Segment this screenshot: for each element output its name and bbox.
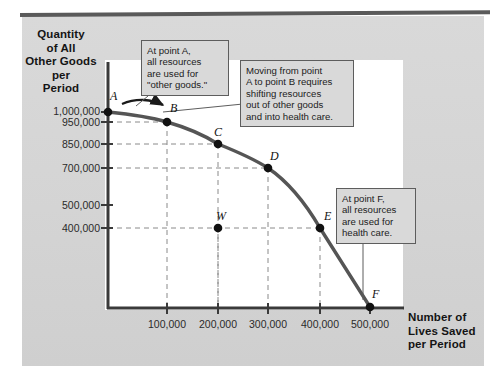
y-axis-title-line-3: Other Goods — [18, 55, 104, 69]
y-axis-title-line-4: per — [18, 69, 104, 83]
callout-point-a-line-1: At point A, — [147, 45, 223, 56]
point-c — [214, 140, 223, 149]
y-axis-title-line-2: of All — [18, 42, 104, 56]
point-w — [214, 224, 223, 233]
x-axis-title-line-1: Number of — [408, 311, 490, 325]
callout-a-to-b-line-2: A to point B requires — [246, 76, 348, 87]
x-axis-title: Number of Lives Saved per Period — [408, 311, 490, 352]
x-tick-label-100000: 100,000 — [138, 318, 196, 330]
point-label-b: B — [170, 101, 177, 116]
callout-point-a-line-2: all resources — [147, 56, 223, 67]
y-axis-title-line-1: Quantity — [18, 28, 104, 42]
callout-a-to-b-line-1: Moving from point — [246, 65, 348, 76]
x-axis-title-line-2: Lives Saved — [408, 325, 490, 339]
gridlines — [108, 122, 320, 308]
point-label-d: D — [270, 149, 279, 164]
point-label-c: C — [214, 125, 222, 140]
callout-point-f-line-3: are used for — [342, 216, 410, 227]
x-axis-title-line-3: per Period — [408, 338, 490, 352]
callout-a-to-b-line-5: and into health care. — [246, 111, 348, 122]
callout-point-a-line-4: "other goods." — [147, 79, 223, 90]
callout-point-a: At point A, all resources are used for "… — [141, 40, 229, 96]
callout-a-to-b-line-4: out of other goods — [246, 99, 348, 110]
point-f — [366, 303, 375, 312]
point-e — [316, 224, 325, 233]
callout-point-f-line-4: health care. — [342, 227, 410, 238]
callout-point-f-line-2: all resources — [342, 204, 410, 215]
point-label-a: A — [110, 89, 117, 104]
point-b — [163, 118, 172, 127]
y-tick-label-700000: 700,000 — [24, 162, 100, 174]
y-tick-label-950000: 950,000 — [24, 116, 100, 128]
figure-container: Quantity of All Other Goods per Period N… — [0, 0, 493, 380]
point-label-f: F — [372, 287, 379, 302]
callout-point-a-line-3: are used for — [147, 68, 223, 79]
y-tick-label-400000: 400,000 — [24, 222, 100, 234]
x-tick-label-300000: 300,000 — [239, 318, 297, 330]
callout-a-to-b: Moving from point A to point B requires … — [240, 60, 354, 127]
point-a — [104, 108, 113, 117]
point-label-w: W — [216, 209, 226, 224]
point-d — [264, 164, 273, 173]
y-tick-label-850000: 850,000 — [24, 138, 100, 150]
y-axis-title-line-5: Period — [18, 82, 104, 96]
y-tick-label-500000: 500,000 — [24, 199, 100, 211]
point-label-e: E — [324, 209, 331, 224]
data-points — [104, 108, 375, 312]
y-axis-title: Quantity of All Other Goods per Period — [18, 28, 104, 96]
x-tick-label-500000: 500,000 — [341, 318, 399, 330]
callout-point-f: At point F, all resources are used for h… — [336, 188, 416, 244]
callout-a-to-b-line-3: shifting resources — [246, 88, 348, 99]
callout-point-f-line-1: At point F, — [342, 193, 410, 204]
